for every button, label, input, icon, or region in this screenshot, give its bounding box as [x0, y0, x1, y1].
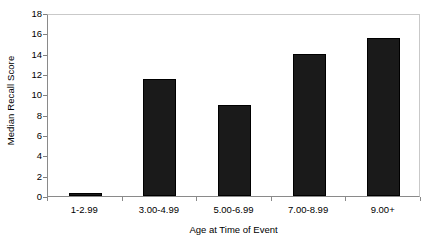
y-tick-label: 0: [37, 192, 42, 202]
y-tick-mark: [43, 177, 47, 178]
x-tick-mark: [271, 197, 272, 201]
y-tick-mark: [43, 55, 47, 56]
y-tick-mark: [43, 156, 47, 157]
y-tick-label: 16: [31, 29, 42, 39]
x-tick-mark: [420, 197, 421, 201]
y-tick-label: 10: [31, 90, 42, 100]
y-tick-label: 6: [37, 131, 42, 141]
bar: [143, 79, 176, 196]
y-tick-mark: [43, 136, 47, 137]
y-tick-label: 12: [31, 70, 42, 80]
y-tick-mark: [43, 95, 47, 96]
y-axis-title: Median Recall Score: [0, 0, 22, 200]
x-tick-mark: [345, 197, 346, 201]
x-tick-mark: [122, 197, 123, 201]
y-tick-label: 8: [37, 111, 42, 121]
y-tick-label: 18: [31, 9, 42, 19]
y-tick-label: 2: [37, 172, 42, 182]
y-tick-label: 4: [37, 151, 42, 161]
bar: [69, 193, 102, 196]
y-tick-label: 14: [31, 50, 42, 60]
plot-area: [47, 14, 420, 197]
bar: [293, 54, 326, 196]
x-tick-mark: [47, 197, 48, 201]
bar: [218, 105, 251, 197]
y-tick-mark: [43, 14, 47, 15]
x-tick-mark: [196, 197, 197, 201]
bar: [367, 38, 400, 196]
x-tick-label: 1-2.99: [47, 204, 122, 216]
bar-chart: Median Recall Score 024681012141618 1-2.…: [0, 0, 429, 245]
x-tick-label: 7.00-8.99: [271, 204, 346, 216]
x-tick-label: 3.00-4.99: [122, 204, 197, 216]
y-tick-mark: [43, 34, 47, 35]
y-tick-mark: [43, 116, 47, 117]
x-axis-title: Age at Time of Event: [47, 224, 420, 235]
x-tick-label: 9.00+: [345, 204, 420, 216]
y-axis-title-text: Median Recall Score: [6, 55, 17, 145]
bars-layer: [48, 15, 419, 196]
y-axis-tick-labels: 024681012141618: [22, 14, 46, 197]
x-tick-label: 5.00-6.99: [196, 204, 271, 216]
x-axis-tick-labels: 1-2.993.00-4.995.00-6.997.00-8.999.00+: [47, 204, 420, 220]
y-tick-mark: [43, 75, 47, 76]
